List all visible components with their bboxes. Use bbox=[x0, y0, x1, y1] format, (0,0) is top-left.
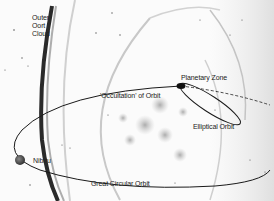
label-elliptical-orbit: Elliptical Orbit bbox=[193, 123, 234, 131]
haze-blob bbox=[173, 148, 187, 162]
label-oort-oort: Oort bbox=[32, 22, 45, 30]
haze-blob bbox=[135, 115, 155, 135]
label-oort-outer: Outer bbox=[32, 14, 49, 22]
label-oort-cloud: Cloud bbox=[32, 30, 50, 38]
orbit-diagram: Outer Oort Cloud Planetary Zone 'Occulta… bbox=[0, 0, 274, 201]
planetary-zone-marker bbox=[177, 83, 186, 89]
haze-blob bbox=[118, 113, 128, 123]
faint-arc bbox=[64, 0, 75, 201]
label-nibiru: Nibiru bbox=[33, 157, 51, 165]
haze-blob bbox=[157, 127, 173, 143]
haze-blob bbox=[178, 107, 188, 117]
nibiru-planet bbox=[15, 155, 25, 165]
label-planetary-zone: Planetary Zone bbox=[181, 74, 227, 82]
haze-blob bbox=[124, 134, 136, 146]
label-occultation: 'Occultation' of Orbit bbox=[100, 92, 160, 100]
faint-arc bbox=[101, 18, 150, 200]
label-great-circular-orbit: Great Circular Orbit bbox=[91, 180, 150, 188]
faint-arc bbox=[150, 7, 220, 18]
